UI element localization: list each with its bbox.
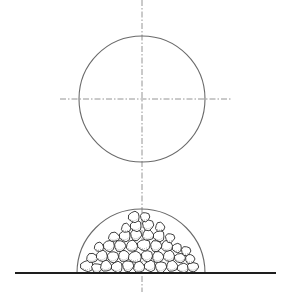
pebble bbox=[115, 241, 126, 252]
pebble bbox=[96, 250, 107, 261]
pebble bbox=[144, 260, 155, 272]
pebble bbox=[128, 211, 139, 223]
pebble bbox=[121, 223, 130, 232]
pebble bbox=[156, 222, 165, 231]
pebble bbox=[177, 263, 188, 273]
pebble bbox=[165, 234, 175, 243]
pebble bbox=[172, 243, 181, 253]
pebble bbox=[155, 262, 166, 273]
pebble bbox=[134, 261, 145, 272]
pebble bbox=[108, 232, 119, 241]
pebble-pile bbox=[81, 211, 199, 273]
pebble bbox=[103, 241, 114, 252]
pebble bbox=[153, 252, 164, 263]
pebble bbox=[154, 230, 164, 242]
pebble bbox=[119, 251, 130, 262]
pebble bbox=[128, 251, 141, 262]
pebble bbox=[141, 251, 152, 262]
pebble bbox=[137, 240, 150, 251]
pebble bbox=[126, 240, 137, 251]
pebble bbox=[123, 261, 134, 272]
pebble bbox=[187, 263, 198, 272]
diagram-canvas bbox=[0, 0, 287, 292]
pebble bbox=[163, 250, 174, 261]
pebble bbox=[167, 260, 178, 271]
pebble bbox=[151, 241, 162, 252]
